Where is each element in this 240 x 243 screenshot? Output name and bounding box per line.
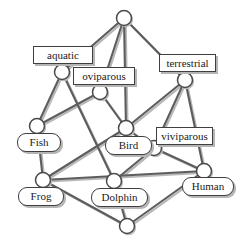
lattice-node-bottom[interactable] — [120, 219, 135, 234]
lattice-node-top[interactable] — [117, 11, 132, 26]
label-bird-text: Bird — [119, 140, 139, 151]
lattice-node-aquatic[interactable] — [55, 65, 70, 80]
label-bird[interactable]: Bird — [105, 136, 152, 155]
label-human[interactable]: Human — [182, 177, 234, 196]
lattice-node-dolphin[interactable] — [107, 174, 122, 189]
label-frog[interactable]: Frog — [18, 187, 64, 206]
lattice-edge — [185, 80, 204, 171]
label-fish-text: Fish — [30, 137, 49, 148]
label-human-text: Human — [192, 181, 224, 192]
label-viviparous-text: viviparous — [161, 131, 207, 142]
concept-lattice-diagram: aquaticoviparousterrestrialviviparousFis… — [0, 0, 240, 243]
label-oviparous[interactable]: oviparous — [73, 67, 135, 85]
lattice-node-terrestrial[interactable] — [178, 73, 193, 88]
lattice-edge-shadow — [39, 94, 102, 128]
label-terrestrial[interactable]: terrestrial — [159, 54, 216, 72]
label-aquatic-text: aquatic — [47, 50, 79, 61]
label-dolphin-text: Dolphin — [101, 192, 137, 203]
lattice-node-bird[interactable] — [119, 121, 134, 136]
label-terrestrial-text: terrestrial — [166, 58, 208, 69]
lattice-node-oviparous[interactable] — [93, 85, 108, 100]
lattice-edge-shadow — [128, 82, 187, 130]
lattice-node-fish[interactable] — [30, 119, 45, 134]
label-viviparous[interactable]: viviparous — [156, 127, 213, 145]
label-aquatic[interactable]: aquatic — [33, 46, 93, 64]
lattice-node-frog[interactable] — [36, 173, 51, 188]
label-frog-text: Frog — [31, 191, 52, 202]
label-oviparous-text: oviparous — [82, 71, 125, 82]
label-dolphin[interactable]: Dolphin — [91, 188, 148, 207]
label-fish[interactable]: Fish — [17, 133, 61, 152]
